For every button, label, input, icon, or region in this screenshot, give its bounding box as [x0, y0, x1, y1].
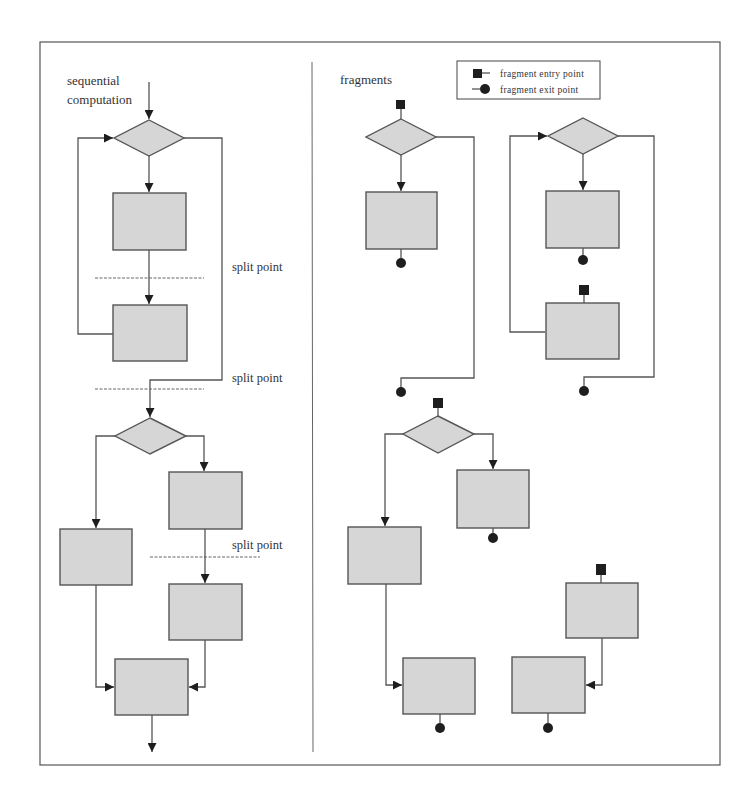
fragment-3	[348, 398, 529, 733]
decision-diamond-1	[114, 120, 184, 156]
process-box	[348, 527, 421, 584]
split-point-label-1: split point	[232, 260, 283, 274]
process-box	[366, 192, 437, 249]
process-box-a	[113, 193, 186, 250]
process-box	[546, 191, 619, 248]
decision-diamond-2	[115, 418, 186, 454]
process-box-e	[169, 584, 242, 640]
entry-point-square-icon	[433, 398, 443, 408]
decision-diamond	[548, 118, 618, 154]
process-box-merge	[115, 659, 188, 715]
exit-point-circle-icon	[396, 387, 406, 397]
exit-point-circle-icon	[488, 533, 498, 543]
panel-divider	[312, 62, 313, 752]
fragment-2	[510, 118, 654, 396]
edge-to-box-d	[96, 436, 115, 528]
legend-exit-label: fragment exit point	[500, 85, 579, 95]
exit-point-circle-icon	[396, 258, 406, 268]
exit-point-circle-icon	[579, 386, 589, 396]
process-box	[403, 658, 475, 714]
decision-diamond	[403, 416, 474, 453]
fragmentation-diagram: sequential computation fragments split p…	[0, 0, 756, 798]
legend-entry-label: fragment entry point	[500, 69, 584, 79]
entry-point-square-icon	[596, 564, 606, 575]
process-box-b	[113, 305, 187, 361]
fragment-1	[366, 100, 474, 397]
entry-point-square-icon	[579, 285, 589, 295]
entry-point-square-icon	[473, 69, 482, 78]
edge-to-box-c	[186, 436, 204, 471]
edge-e-to-merge	[189, 640, 205, 687]
process-box	[566, 583, 638, 638]
exit-point-circle-icon	[578, 255, 588, 265]
fragments-panel	[348, 61, 654, 733]
split-point-label-3: split point	[232, 538, 283, 552]
process-box	[546, 303, 619, 359]
entry-point-square-icon	[396, 100, 405, 109]
left-title-line-2: computation	[67, 92, 132, 107]
split-point-label-2: split point	[232, 371, 283, 385]
decision-diamond	[366, 119, 436, 155]
left-title-line-1: sequential	[67, 73, 120, 88]
edge-d-to-merge	[96, 585, 114, 687]
sequential-computation-panel	[60, 82, 260, 752]
process-box	[512, 657, 585, 713]
fragment-4	[512, 564, 638, 733]
exit-point-circle-icon	[480, 84, 490, 94]
exit-point-circle-icon	[435, 723, 445, 733]
loop-back-edge	[78, 138, 113, 334]
exit-point-circle-icon	[543, 723, 553, 733]
process-box	[457, 470, 529, 528]
process-box-c	[169, 472, 242, 529]
process-box-d	[60, 529, 132, 585]
right-title: fragments	[340, 72, 392, 87]
